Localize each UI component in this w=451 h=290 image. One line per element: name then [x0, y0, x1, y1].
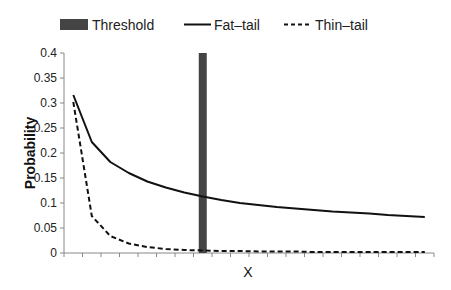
legend: Threshold Fat–tail Thin–tail [60, 17, 368, 33]
thin-tail-line [73, 102, 425, 252]
threshold-bar [199, 53, 207, 253]
y-tick-label: 0 [50, 246, 57, 260]
y-tick-label: 0.1 [40, 196, 57, 210]
legend-threshold-label: Threshold [92, 17, 154, 33]
y-tick-label: 0.4 [40, 46, 57, 60]
y-tick-label: 0.2 [40, 146, 57, 160]
y-tick-label: 0.15 [34, 171, 58, 185]
y-tick-label: 0.35 [34, 71, 58, 85]
y-tick-label: 0.25 [34, 121, 58, 135]
legend-fat-label: Fat–tail [214, 17, 260, 33]
y-tick-label: 0.05 [34, 221, 58, 235]
x-axis-title: X [243, 264, 253, 280]
y-tick-label: 0.3 [40, 96, 57, 110]
fat-tail-line [73, 95, 425, 217]
legend-thin-label: Thin–tail [315, 17, 368, 33]
legend-threshold-swatch [60, 19, 88, 30]
chart: Threshold Fat–tail Thin–tail Probability… [0, 0, 451, 290]
